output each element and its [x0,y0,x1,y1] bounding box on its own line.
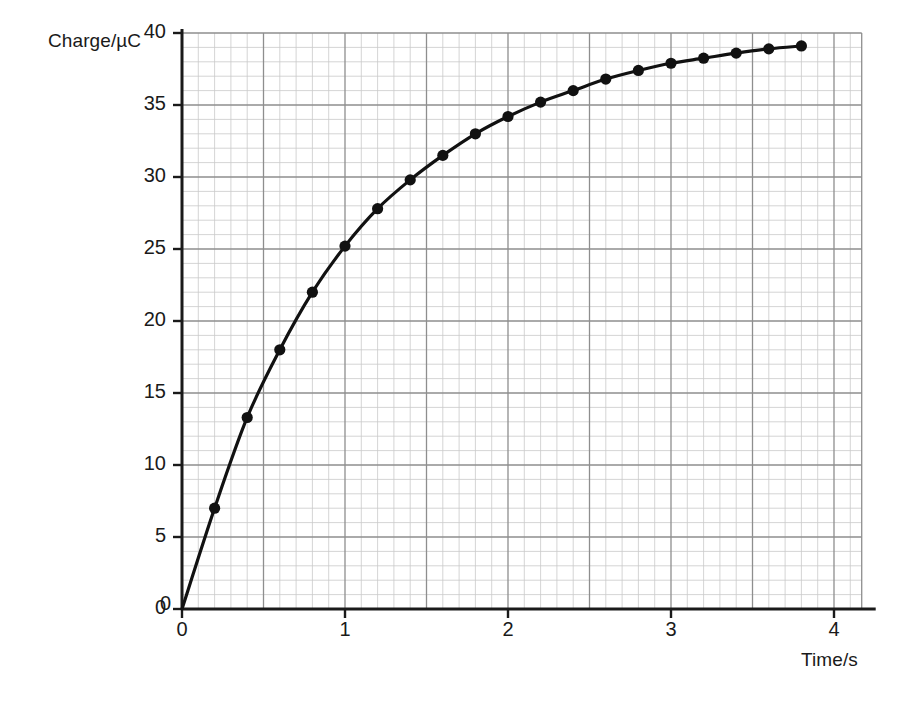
y-tick-label: 25 [126,236,166,259]
data-point [242,412,253,423]
origin-zero-label: 0 [160,592,171,615]
data-point [502,111,513,122]
data-point [698,53,709,64]
data-point [568,85,579,96]
data-point [274,344,285,355]
y-tick-label: 5 [126,524,166,547]
x-tick-label: 3 [651,618,691,641]
y-tick-label: 15 [126,380,166,403]
data-point [405,174,416,185]
y-tick-label: 30 [126,164,166,187]
data-point [339,241,350,252]
data-point [600,73,611,84]
y-tick-label: 20 [126,308,166,331]
data-point [633,65,644,76]
x-axis-title: Time/s [801,649,858,671]
y-tick-label: 10 [126,452,166,475]
charge-vs-time-graph: Charge/µC Time/s 0510152025303540 01234 … [0,0,907,703]
data-point [796,40,807,51]
data-point [731,48,742,59]
x-tick-label: 2 [488,618,528,641]
x-tick-label: 1 [325,618,365,641]
axis-lines [182,29,876,609]
data-point [470,128,481,139]
data-point [665,58,676,69]
y-tick-label: 40 [126,20,166,43]
data-point [209,503,220,514]
y-tick-label: 35 [126,92,166,115]
data-point [372,203,383,214]
x-tick-label: 4 [814,618,854,641]
x-tick-label: 0 [162,618,202,641]
axis-tick-marks [173,33,834,618]
data-point [535,97,546,108]
data-point [437,150,448,161]
data-point [763,43,774,54]
data-point [307,287,318,298]
